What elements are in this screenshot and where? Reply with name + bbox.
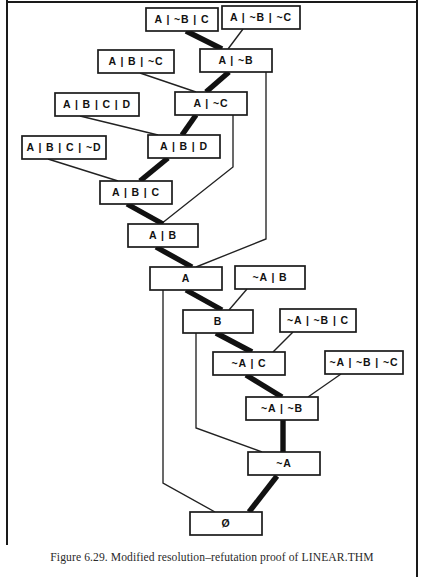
clause-node[interactable]: ~A | B xyxy=(235,266,305,289)
clause-node-label: ~A | ~B xyxy=(261,402,303,414)
resolution-spine-edge xyxy=(140,158,168,181)
resolution-spine-edge xyxy=(156,247,192,267)
figure-page: A | ~B | CA | ~B | ~CA | B | ~CA | ~BA |… xyxy=(0,0,424,577)
clause-input-edge xyxy=(161,115,233,224)
clause-node-label: B xyxy=(214,315,222,327)
resolution-spine-edge xyxy=(206,72,229,92)
clause-node-label: ~A | ~B | C xyxy=(287,314,349,326)
clause-node-label: ~A xyxy=(276,457,292,469)
clause-node-label: A | B | C | D xyxy=(63,98,131,110)
clause-node-label: A | B | ~C xyxy=(108,55,163,67)
clause-input-edge xyxy=(229,289,247,310)
clause-input-edge xyxy=(228,29,243,49)
clause-node-label: A | ~B | C xyxy=(154,13,209,25)
resolution-refutation-diagram: A | ~B | CA | ~B | ~CA | B | ~CA | ~BA |… xyxy=(0,0,424,545)
clause-node[interactable]: A | B | C | D xyxy=(55,93,139,116)
clause-node-label: A | B | D xyxy=(160,140,208,152)
clause-node[interactable]: ~A | ~B xyxy=(246,397,318,420)
clause-node[interactable]: Ø xyxy=(190,512,262,535)
clause-node-label: A | B | C | ~D xyxy=(27,141,102,153)
clause-node[interactable]: A | B | C | ~D xyxy=(22,136,106,159)
clause-node[interactable]: A | ~C xyxy=(175,92,247,115)
clause-input-edge xyxy=(308,374,341,397)
clause-node[interactable]: A xyxy=(150,267,222,290)
resolution-spine-edge xyxy=(216,333,252,352)
clause-node-label: A | ~C xyxy=(193,97,228,109)
clause-node-label: A xyxy=(182,272,190,284)
clause-node[interactable]: A | B | ~C xyxy=(98,50,174,73)
clause-node-label: A | ~B | ~C xyxy=(230,11,292,23)
clause-node[interactable]: A | ~B | ~C xyxy=(222,6,300,29)
clause-node-label: A | B xyxy=(149,229,177,241)
clause-node[interactable]: B xyxy=(183,310,253,333)
clause-node[interactable]: A | ~B xyxy=(200,49,272,72)
clause-input-edge xyxy=(273,332,293,352)
clause-input-edge xyxy=(140,73,196,92)
resolution-spine-edge xyxy=(186,290,222,310)
clause-node[interactable]: ~A xyxy=(248,452,320,475)
resolution-spine-edge xyxy=(127,204,163,224)
clause-node-label: ~A | B xyxy=(252,271,287,283)
clause-node[interactable]: A | ~B | C xyxy=(146,8,218,31)
clause-node[interactable]: A | B | C xyxy=(100,181,172,204)
figure-caption: Figure 6.29. Modified resolution–refutat… xyxy=(0,551,424,564)
clause-node[interactable]: ~A | ~B | C xyxy=(280,309,356,332)
resolution-spine-edge xyxy=(249,476,277,512)
clause-input-edge xyxy=(48,159,118,181)
resolution-spine-edge xyxy=(182,115,196,135)
clause-input-edge xyxy=(80,116,158,135)
clause-node-label: ~A | C xyxy=(231,357,266,369)
resolution-spine-edge xyxy=(246,375,282,397)
clause-node-label: A | B | C xyxy=(112,186,160,198)
clause-node[interactable]: ~A | C xyxy=(213,352,285,375)
clause-node-label: Ø xyxy=(221,517,230,529)
clause-node[interactable]: A | B | D xyxy=(148,135,220,158)
clause-node-label: A | ~B xyxy=(218,54,253,66)
clause-node-label: ~A | ~B | ~C xyxy=(329,356,398,368)
clause-node[interactable]: A | B xyxy=(128,224,198,247)
resolution-spine-edge xyxy=(186,31,222,49)
clause-node[interactable]: ~A | ~B | ~C xyxy=(325,351,403,374)
